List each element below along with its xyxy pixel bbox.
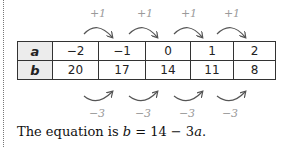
step-label-bottom: −3 — [215, 107, 245, 120]
arc-arrow-icon — [174, 28, 202, 37]
step-label-bottom: −3 — [128, 107, 158, 120]
table-cell: 8 — [234, 61, 276, 80]
equation-var: a — [194, 124, 202, 139]
equation-suffix: . — [202, 124, 206, 139]
arc-arrow-icon — [84, 92, 112, 101]
equation-prefix: The equation is — [17, 124, 123, 139]
arc-arrow-icon — [129, 28, 157, 37]
value-table: a −2 −1 0 1 2 b 20 17 14 11 8 — [17, 41, 276, 80]
table-row-b: b 20 17 14 11 8 — [18, 61, 276, 80]
equation-middle: = 14 − 3 — [131, 124, 194, 139]
table-cell: 1 — [191, 42, 234, 61]
arc-arrow-icon — [174, 92, 202, 101]
table-cell: 11 — [191, 61, 234, 80]
row-header: a — [18, 42, 53, 61]
arc-arrow-icon — [129, 92, 157, 101]
table-cell: 20 — [53, 61, 99, 80]
equation-text: The equation is b = 14 − 3a. — [17, 124, 206, 139]
table-cell: 2 — [234, 42, 276, 61]
step-label-bottom: −3 — [82, 107, 112, 120]
table-cell: −1 — [99, 42, 146, 61]
table-row-a: a −2 −1 0 1 2 — [18, 42, 276, 61]
arc-arrow-icon — [217, 28, 245, 37]
row-header: b — [18, 61, 53, 80]
arc-arrow-icon — [84, 28, 112, 37]
table-cell: 14 — [146, 61, 191, 80]
equation-lhs: b — [123, 124, 131, 139]
table-cell: 17 — [99, 61, 146, 80]
table-cell: −2 — [53, 42, 99, 61]
arc-arrow-icon — [217, 92, 245, 101]
step-label-bottom: −3 — [172, 107, 202, 120]
table-cell: 0 — [146, 42, 191, 61]
